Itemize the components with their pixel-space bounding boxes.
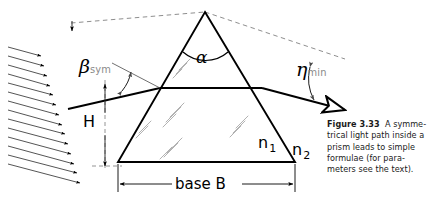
figure-caption: Figure 3.33 A symme- trical light path i… <box>327 119 439 175</box>
incoming-light-arrows <box>8 47 80 183</box>
index-inside-subscript: 1 <box>269 142 276 155</box>
base-label: base B <box>175 175 226 193</box>
figure-3-33: α βsym ηmin H n1 n2 base B Figure 3.33 A… <box>0 0 448 205</box>
height-label: H <box>83 112 95 131</box>
deviation-angle-label: ηmin <box>296 58 327 80</box>
apex-angle-label: α <box>196 47 207 67</box>
caption-text-0: A symme- <box>385 119 426 129</box>
entry-surface-normal <box>112 63 160 88</box>
exit-ray <box>262 88 345 110</box>
deviation-angle-subscript: min <box>307 67 326 78</box>
caption-line-2: prism leads to simple <box>327 142 439 153</box>
incoming-ray <box>68 88 160 109</box>
incidence-angle-label: βsym <box>79 55 111 77</box>
caption-line-3: formulae (for para- <box>327 153 439 164</box>
refractive-index-inside-label: n1 <box>258 133 275 152</box>
index-outside-subscript: 2 <box>303 149 310 162</box>
caption-figure-number: Figure 3.33 <box>327 119 380 129</box>
incidence-angle-subscript: sym <box>90 64 111 75</box>
refractive-index-outside-label: n2 <box>292 140 309 159</box>
caption-line-0: Figure 3.33 A symme- <box>327 119 439 130</box>
incidence-angle-arc <box>122 72 131 91</box>
reference-axis-dashed <box>71 12 205 23</box>
caption-line-4: meters see the text). <box>327 164 439 175</box>
caption-line-1: trical light path inside a <box>327 130 439 141</box>
